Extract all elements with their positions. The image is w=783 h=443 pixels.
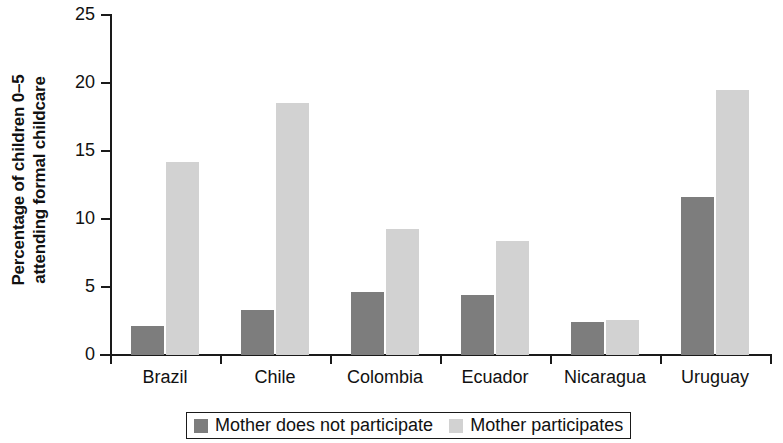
legend-entry: Mother does not participate — [194, 416, 433, 435]
y-axis-tick — [101, 150, 110, 152]
bar-group — [440, 15, 550, 355]
x-axis-tick — [220, 355, 222, 364]
x-axis-tick — [110, 355, 112, 364]
bar-chart-figure: Percentage of children 0–5 attending for… — [0, 0, 783, 443]
y-axis-tick-label: 20 — [55, 73, 95, 91]
y-axis-tick-label: 0 — [55, 345, 95, 363]
legend-swatch-icon — [449, 419, 463, 433]
legend-label: Mother participates — [470, 416, 623, 435]
y-axis-tick — [101, 82, 110, 84]
bar-mother-does-not-participate — [351, 292, 384, 355]
bar-group — [550, 15, 660, 355]
bar-group — [660, 15, 770, 355]
x-axis-tick — [330, 355, 332, 364]
y-axis-tick — [101, 14, 110, 16]
legend-label: Mother does not participate — [215, 416, 433, 435]
bar-mother-participates — [496, 241, 529, 355]
bar-mother-does-not-participate — [241, 310, 274, 355]
x-axis-tick-label: Brazil — [110, 367, 220, 387]
x-axis-tick-label: Nicaragua — [550, 367, 660, 387]
bar-mother-does-not-participate — [571, 322, 604, 355]
y-axis-tick — [101, 286, 110, 288]
y-axis-tick-label: 10 — [55, 209, 95, 227]
y-axis-tick — [101, 354, 110, 356]
bar-mother-participates — [166, 162, 199, 355]
x-axis-tick-label: Ecuador — [440, 367, 550, 387]
y-axis-tick-label: 25 — [55, 5, 95, 23]
bar-mother-participates — [606, 320, 639, 355]
y-axis-tick-label: 15 — [55, 141, 95, 159]
bar-group — [110, 15, 220, 355]
x-axis-tick — [440, 355, 442, 364]
x-axis-tick-label: Uruguay — [660, 367, 770, 387]
x-axis-tick — [770, 355, 772, 364]
y-axis-tick — [101, 218, 110, 220]
legend-entry: Mother participates — [449, 416, 623, 435]
x-axis-tick — [550, 355, 552, 364]
x-axis-tick — [660, 355, 662, 364]
bar-mother-participates — [276, 103, 309, 355]
legend-swatch-icon — [194, 419, 208, 433]
y-axis-tick-label: 5 — [55, 277, 95, 295]
bar-mother-participates — [716, 90, 749, 355]
x-axis-tick-label: Colombia — [330, 367, 440, 387]
bar-group — [220, 15, 330, 355]
bar-mother-participates — [386, 229, 419, 355]
bar-mother-does-not-participate — [131, 326, 164, 355]
y-axis-title-line-2: attending formal childcare — [29, 74, 50, 285]
chart-legend: Mother does not participateMother partic… — [186, 412, 631, 439]
y-axis-title-line-1: Percentage of children 0–5 — [8, 74, 29, 285]
x-axis-tick-label: Chile — [220, 367, 330, 387]
bar-group — [330, 15, 440, 355]
bar-mother-does-not-participate — [681, 197, 714, 355]
plot-area — [110, 15, 770, 355]
bar-mother-does-not-participate — [461, 295, 494, 355]
y-axis-title: Percentage of children 0–5 attending for… — [0, 0, 58, 360]
